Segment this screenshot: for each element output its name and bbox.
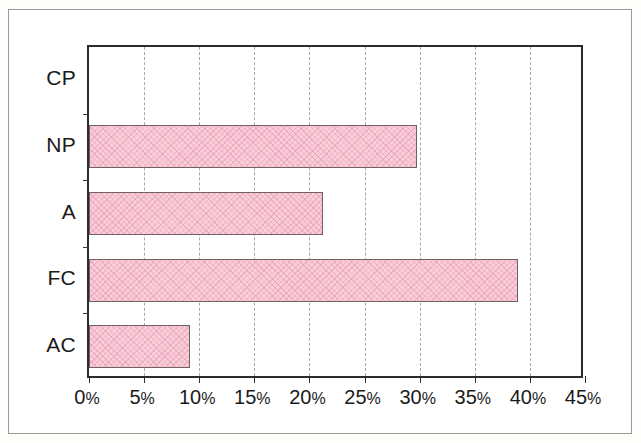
x-axis-label-45pct: 45% xyxy=(565,386,601,409)
x-axis-label-number: 40 xyxy=(510,386,532,408)
x-axis-label-number: 30 xyxy=(399,386,421,408)
chart-figure: CPNPAFCAC 0%5%10%15%20%25%30%35%40%45% xyxy=(0,0,641,443)
y-tick-boundary-1 xyxy=(83,114,89,115)
x-tick-45pct xyxy=(585,376,586,383)
bar-fc xyxy=(89,259,518,302)
x-tick-5pct xyxy=(144,376,145,383)
x-axis-label-number: 15 xyxy=(234,386,256,408)
percent-sign: % xyxy=(201,390,215,407)
x-tick-20pct xyxy=(309,376,310,383)
y-axis-label-a: A xyxy=(10,200,76,224)
x-axis-labels-group: 0%5%10%15%20%25%30%35%40%45% xyxy=(87,386,583,420)
y-axis-label-ac: AC xyxy=(10,333,76,357)
percent-sign: % xyxy=(85,390,99,407)
x-tick-25pct xyxy=(365,376,366,383)
gridline-40pct xyxy=(530,47,531,376)
x-axis-label-25pct: 25% xyxy=(344,386,380,409)
x-axis-label-0pct: 0% xyxy=(74,386,99,409)
x-axis-label-number: 35 xyxy=(455,386,477,408)
percent-sign: % xyxy=(256,390,270,407)
x-tick-15pct xyxy=(254,376,255,383)
y-tick-boundary-2 xyxy=(83,180,89,181)
x-axis-label-number: 0 xyxy=(74,386,85,408)
y-tick-boundary-3 xyxy=(83,247,89,248)
x-tick-35pct xyxy=(475,376,476,383)
x-axis-label-40pct: 40% xyxy=(510,386,546,409)
x-tick-30pct xyxy=(420,376,421,383)
y-axis-labels-group: CPNPAFCAC xyxy=(10,45,80,378)
x-axis-label-30pct: 30% xyxy=(399,386,435,409)
x-axis-label-number: 5 xyxy=(129,386,140,408)
percent-sign: % xyxy=(367,390,381,407)
x-axis-label-10pct: 10% xyxy=(179,386,215,409)
x-axis-label-15pct: 15% xyxy=(234,386,270,409)
gridline-25pct xyxy=(365,47,366,376)
percent-sign: % xyxy=(311,390,325,407)
gridline-30pct xyxy=(420,47,421,376)
y-axis-label-np: NP xyxy=(10,133,76,157)
x-axis-label-35pct: 35% xyxy=(455,386,491,409)
percent-sign: % xyxy=(587,390,601,407)
bar-ac xyxy=(89,325,190,368)
y-axis-label-fc: FC xyxy=(10,266,76,290)
y-axis-label-cp: CP xyxy=(10,66,76,90)
plot-inner xyxy=(89,47,581,376)
plot-area-frame xyxy=(87,45,583,378)
x-axis-label-number: 25 xyxy=(344,386,366,408)
percent-sign: % xyxy=(532,390,546,407)
x-axis-label-number: 10 xyxy=(179,386,201,408)
x-tick-40pct xyxy=(530,376,531,383)
x-axis-label-number: 45 xyxy=(565,386,587,408)
bar-a xyxy=(89,192,323,235)
percent-sign: % xyxy=(422,390,436,407)
percent-sign: % xyxy=(141,390,155,407)
x-axis-label-5pct: 5% xyxy=(129,386,154,409)
x-axis-label-number: 20 xyxy=(289,386,311,408)
percent-sign: % xyxy=(477,390,491,407)
x-axis-label-20pct: 20% xyxy=(289,386,325,409)
y-tick-boundary-4 xyxy=(83,313,89,314)
gridline-35pct xyxy=(475,47,476,376)
x-tick-0pct xyxy=(89,376,90,383)
x-tick-10pct xyxy=(199,376,200,383)
bar-np xyxy=(89,125,417,168)
